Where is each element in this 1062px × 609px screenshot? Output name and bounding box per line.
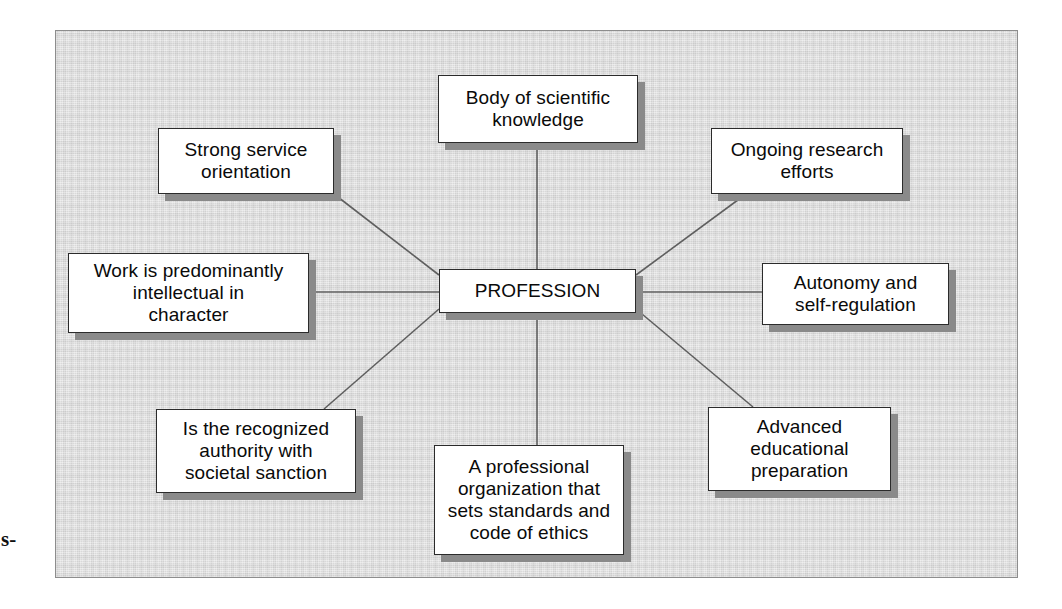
node-work-predominantly-intellectual[interactable]: Work is predominantly intellectual in ch… [68, 253, 309, 333]
edge-center-to-ongoing-research-efforts [636, 194, 746, 275]
node-body-of-scientific-knowledge[interactable]: Body of scientific knowledge [438, 75, 638, 143]
node-center-profession[interactable]: PROFESSION [439, 269, 636, 313]
diagram-stage: s- PROFESSION Body of scientific knowled… [0, 0, 1062, 609]
node-recognized-authority[interactable]: Is the recognized authority with societa… [156, 409, 356, 493]
node-autonomy-and-self-regulation[interactable]: Autonomy and self-regulation [762, 263, 949, 325]
node-professional-organization[interactable]: A professional organization that sets st… [434, 445, 624, 555]
node-ongoing-research-efforts[interactable]: Ongoing research efforts [711, 128, 903, 194]
edge-center-to-advanced-educational-preparation [636, 309, 753, 407]
edge-center-to-recognized-authority [324, 309, 439, 409]
node-strong-service-orientation[interactable]: Strong service orientation [158, 128, 334, 194]
diagram-panel: PROFESSION Body of scientific knowledge … [55, 30, 1018, 578]
page-margin-text-fragment: s- [1, 527, 16, 552]
node-advanced-educational-preparation[interactable]: Advanced educational preparation [708, 407, 891, 491]
edge-center-to-strong-service-orientation [334, 194, 439, 275]
